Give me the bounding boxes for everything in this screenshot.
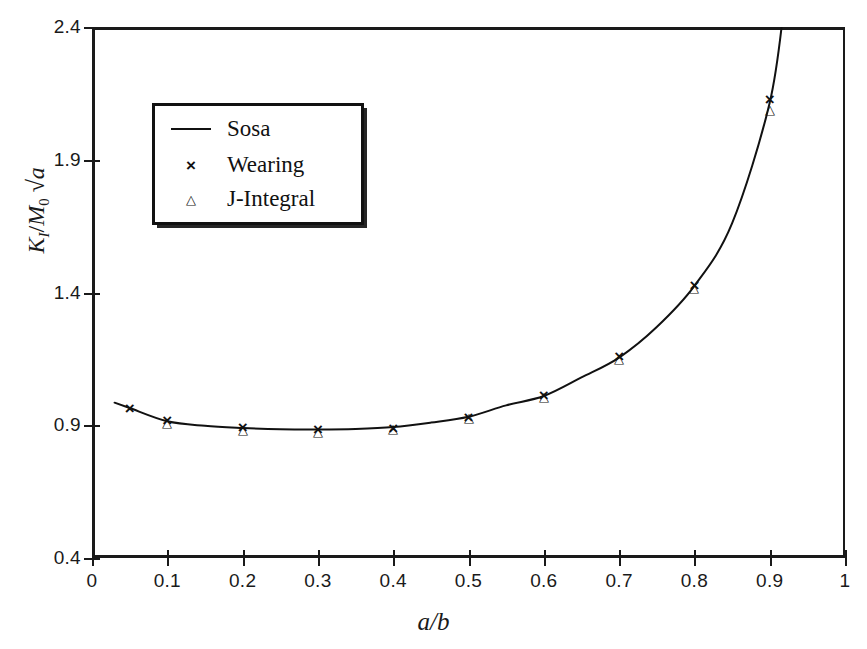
x-tick (167, 550, 169, 566)
legend-entry-j-integral: △ J-Integral (155, 182, 361, 216)
cross-glyph: × (186, 157, 196, 174)
x-tick (845, 550, 847, 566)
y-tick-label: 2.4 (54, 16, 81, 38)
y-axis-k-sub: I (36, 232, 52, 237)
x-tick (619, 550, 621, 566)
x-tick-label: 0.8 (681, 570, 708, 592)
legend-entry-sosa: Sosa (155, 112, 361, 146)
y-tick (84, 425, 100, 427)
x-tick (694, 550, 696, 566)
x-tick-label: 0.9 (756, 570, 783, 592)
x-tick (469, 550, 471, 566)
y-tick-label: 1.9 (54, 149, 81, 171)
legend-entry-wearing: × Wearing (155, 148, 361, 182)
x-tick (770, 550, 772, 566)
triangle-marker-icon: △ (155, 193, 227, 206)
legend-label-wearing: Wearing (227, 152, 304, 178)
y-tick (84, 160, 100, 162)
x-axis-slash: / (430, 608, 437, 635)
x-tick-label: 0.6 (530, 570, 557, 592)
y-tick (84, 293, 100, 295)
x-axis-den: b (437, 608, 450, 635)
y-axis-k: K (23, 237, 49, 253)
cross-marker-icon: × (155, 157, 227, 174)
y-axis-a: a (23, 167, 49, 179)
x-tick (243, 550, 245, 566)
x-tick (318, 550, 320, 566)
x-tick (544, 550, 546, 566)
y-axis-title: KI/M0 √a (23, 213, 54, 253)
x-tick (393, 550, 395, 566)
x-tick-label: 0.7 (605, 570, 632, 592)
x-tick-label: 0.3 (304, 570, 331, 592)
y-axis-m: M (23, 206, 49, 226)
y-tick-label: 0.9 (54, 414, 81, 436)
x-tick-label: 0 (87, 570, 98, 592)
x-tick-label: 0.1 (154, 570, 181, 592)
y-tick-label: 0.4 (54, 547, 81, 569)
legend-label-j-integral: J-Integral (227, 186, 315, 212)
x-tick-label: 0.5 (455, 570, 482, 592)
x-tick (92, 550, 94, 566)
y-axis-slash: / (23, 226, 49, 233)
legend-label-sosa: Sosa (227, 116, 270, 142)
legend-box: Sosa × Wearing △ J-Integral (152, 103, 364, 225)
x-tick-label: 0.2 (229, 570, 256, 592)
y-tick (84, 27, 100, 29)
y-axis-m-sub: 0 (36, 198, 52, 205)
line-icon (155, 128, 227, 130)
y-tick-label: 1.4 (54, 282, 81, 304)
y-axis-radical: √ (23, 179, 49, 192)
figure-canvas: 0.40.91.41.92.400.10.20.30.40.50.60.70.8… (0, 0, 867, 649)
triangle-glyph: △ (186, 193, 196, 206)
x-tick-label: 0.4 (380, 570, 407, 592)
x-axis-num: a (418, 608, 431, 635)
x-axis-title: a/b (0, 608, 867, 636)
x-tick-label: 1 (840, 570, 851, 592)
